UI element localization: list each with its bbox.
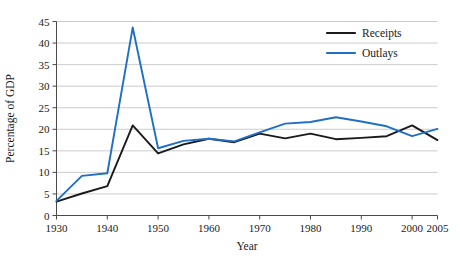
x-tick-label: 1940 [96,222,119,234]
x-tick-label: 1930 [46,222,69,234]
y-tick-label: 35 [39,59,51,71]
y-tick-label: 45 [39,16,51,28]
legend-label-receipts: Receipts [362,27,402,40]
y-tick-label: 0 [44,210,50,222]
figure-container: 051015202530354045 193019401950196019701… [0,0,460,265]
y-tick-label: 10 [39,166,51,178]
y-axis-title: Percentage of GDP [4,74,17,163]
x-tick-label: 2005 [427,222,450,234]
x-tick-label: 1990 [350,222,373,234]
y-tick-label: 15 [39,145,51,157]
y-tick-label: 20 [39,123,51,135]
x-tick-label: 1950 [147,222,170,234]
y-tick-label: 40 [39,37,51,49]
line-chart: 051015202530354045 193019401950196019701… [0,0,460,265]
legend-label-outlays: Outlays [362,47,398,60]
x-axis-title: Year [236,240,257,252]
y-tick-label: 30 [39,80,51,92]
x-tick-label: 2000 [401,222,424,234]
y-tick-label: 5 [44,188,50,200]
chart-background [0,0,460,265]
y-tick-label: 25 [39,102,51,114]
x-tick-label: 1980 [300,222,323,234]
x-tick-label: 1960 [198,222,221,234]
x-tick-label: 1970 [249,222,272,234]
